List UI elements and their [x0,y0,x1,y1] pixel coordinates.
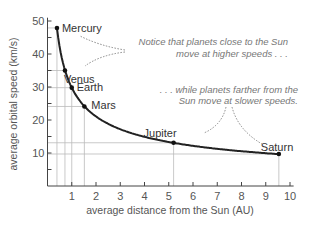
x-tick-label: 2 [93,190,99,202]
y-tick-label: 20 [32,114,44,126]
x-tick-label: 8 [238,190,244,202]
x-tick-label: 6 [190,190,196,202]
orbital-speed-chart: 123456789101020304050 MercuryVenusEarthM… [0,0,314,228]
svg-text:. . . while planets farther fr: . . . while planets farther from the [160,84,298,95]
planet-point [171,140,176,145]
x-tick-label: 3 [117,190,123,202]
x-tick-label: 10 [284,190,296,202]
y-axis-label: average orbital speed (km/s) [7,37,19,170]
y-tick-label: 40 [32,48,44,60]
x-tick-label: 9 [263,190,269,202]
annotations: Notice that planets close to the Sunmove… [80,36,298,144]
planet-point [82,104,87,109]
x-tick-label: 7 [214,190,220,202]
planet-label: Saturn [261,141,293,153]
x-tick-label: 4 [141,190,147,202]
planet-point [55,26,60,31]
y-tick-label: 10 [32,147,44,159]
planet-label: Mercury [62,22,102,34]
svg-text:move at higher speeds . . .: move at higher speeds . . . [176,48,288,59]
x-tick-label: 5 [166,190,172,202]
svg-text:Sun move at slower speeds.: Sun move at slower speeds. [179,95,298,106]
planet-point [69,85,74,90]
y-tick-label: 30 [32,81,44,93]
planet-label: Earth [77,81,103,93]
x-axis-label: average distance from the Sun (AU) [86,204,254,216]
svg-text:Notice that planets close to t: Notice that planets close to the Sun [139,36,288,47]
planet-label: Mars [91,99,116,111]
y-tick-label: 50 [32,15,44,27]
planet-label: Jupiter [144,127,177,139]
x-tick-label: 1 [69,190,75,202]
